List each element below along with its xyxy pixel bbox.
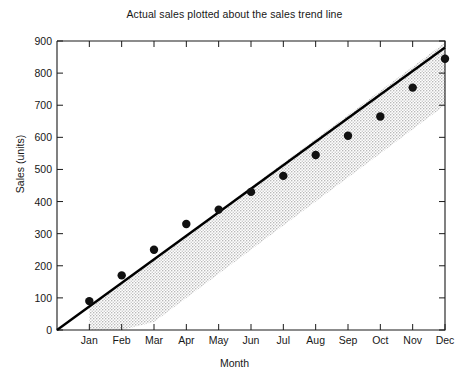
data-point [118, 271, 126, 279]
data-point [441, 55, 449, 63]
data-point [376, 112, 384, 120]
data-point [344, 132, 352, 140]
plot-area [0, 0, 469, 383]
data-point [85, 297, 93, 305]
data-point [312, 151, 320, 159]
data-point [279, 172, 287, 180]
sales-trend-chart: Actual sales plotted about the sales tre… [0, 0, 469, 383]
data-point [247, 188, 255, 196]
data-point [182, 220, 190, 228]
data-point [150, 246, 158, 254]
data-point [215, 205, 223, 213]
data-point [409, 83, 417, 91]
